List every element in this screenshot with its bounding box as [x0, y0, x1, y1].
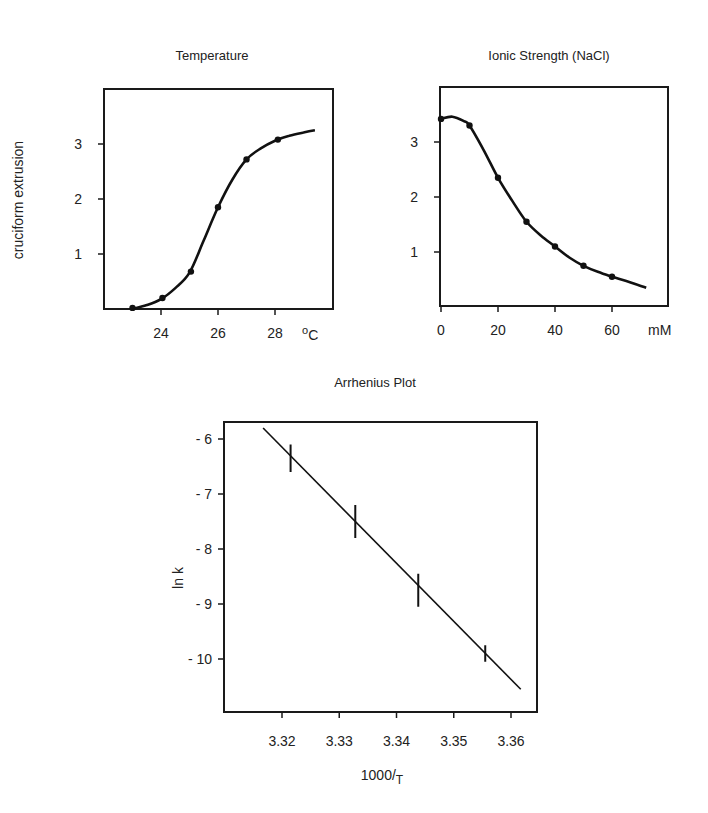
y-tick-label: 3 — [74, 136, 82, 152]
data-point — [188, 268, 194, 274]
y-tick-label: - 6 — [196, 431, 213, 447]
y-tick-label: 3 — [410, 134, 418, 150]
data-point — [275, 136, 281, 142]
temperature-y-label: cruciform extrusion — [10, 141, 26, 259]
data-point — [495, 175, 501, 181]
x-tick-label: 3.33 — [326, 733, 353, 749]
arrhenius-y-axis: - 6- 7- 8- 9- 10 — [188, 431, 224, 667]
ionic-strength-data-points — [438, 116, 615, 280]
x-tick-label: 26 — [210, 325, 226, 341]
y-tick-label: - 8 — [196, 541, 213, 557]
temperature-plot-frame — [104, 89, 333, 309]
ionic-strength-chart: Ionic Strength (NaCl) 0204060 123 mM — [410, 48, 671, 338]
data-point — [523, 219, 529, 225]
ionic-strength-y-axis: 123 — [410, 134, 440, 260]
arrhenius-error-bars — [291, 445, 486, 662]
ionic-strength-x-label: mM — [648, 322, 671, 338]
x-tick-label: 3.36 — [497, 733, 524, 749]
ionic-strength-plot-frame — [440, 87, 668, 306]
x-tick-label: 3.34 — [383, 733, 410, 749]
temperature-data-points — [129, 136, 281, 311]
ionic-strength-x-axis: 0204060 — [437, 306, 620, 338]
y-tick-label: 2 — [74, 191, 82, 207]
figure-canvas: Temperature 242628 123 oC cruciform extr… — [0, 0, 708, 813]
data-point — [580, 263, 586, 269]
x-tick-label: 3.35 — [440, 733, 467, 749]
data-point — [466, 122, 472, 128]
y-tick-label: 1 — [410, 244, 418, 260]
arrhenius-chart: Arrhenius Plot 3.323.333.343.353.36 - 6-… — [170, 375, 537, 787]
x-tick-label: 60 — [604, 322, 620, 338]
y-tick-label: - 9 — [196, 596, 213, 612]
temperature-chart: Temperature 242628 123 oC cruciform extr… — [10, 48, 333, 343]
arrhenius-chart-title: Arrhenius Plot — [334, 375, 416, 390]
x-tick-label: 20 — [490, 322, 506, 338]
x-tick-label: 0 — [437, 322, 445, 338]
temperature-x-axis: 242628 — [153, 309, 283, 341]
temperature-fitted-curve — [133, 130, 315, 309]
y-tick-label: 2 — [410, 189, 418, 205]
data-point — [159, 295, 165, 301]
y-tick-label: - 10 — [188, 651, 212, 667]
arrhenius-x-axis: 3.323.333.343.353.36 — [268, 712, 524, 749]
data-point — [129, 305, 135, 311]
arrhenius-y-label: ln k — [170, 566, 186, 589]
data-point — [552, 243, 558, 249]
x-tick-label: 24 — [153, 325, 169, 341]
x-tick-label: 3.32 — [268, 733, 295, 749]
temperature-chart-title: Temperature — [176, 48, 249, 63]
x-tick-label: 40 — [547, 322, 563, 338]
ionic-strength-chart-title: Ionic Strength (NaCl) — [488, 48, 609, 63]
arrhenius-linear-fit — [263, 428, 521, 689]
temperature-y-axis: 123 — [74, 136, 104, 262]
y-tick-label: 1 — [74, 246, 82, 262]
data-point — [215, 204, 221, 210]
y-tick-label: - 7 — [196, 486, 213, 502]
arrhenius-x-label: 1000/T — [361, 767, 404, 787]
data-point — [438, 116, 444, 122]
x-tick-label: 28 — [267, 325, 283, 341]
arrhenius-plot-frame — [224, 422, 537, 712]
data-point — [243, 156, 249, 162]
ionic-strength-fitted-curve — [441, 117, 646, 288]
data-point — [609, 274, 615, 280]
temperature-x-label: oC — [302, 324, 318, 343]
